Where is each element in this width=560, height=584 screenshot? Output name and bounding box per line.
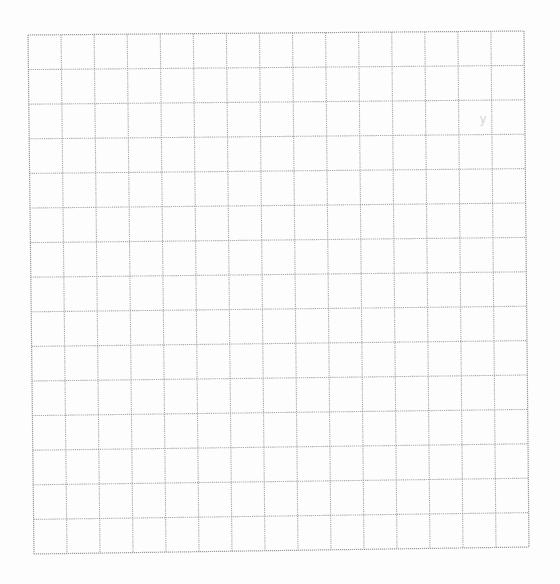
grid-vertical-line	[392, 32, 397, 549]
grid-horizontal-line	[34, 513, 529, 520]
grid-horizontal-line	[30, 237, 526, 242]
grid-vertical-line	[193, 34, 199, 552]
grid-horizontal-line	[31, 272, 527, 277]
grid-horizontal-line	[32, 375, 527, 381]
grid-vertical-line	[491, 31, 496, 547]
grid-vertical-line	[259, 33, 265, 551]
grid-horizontal-line	[31, 306, 526, 312]
grid-horizontal-line	[32, 409, 527, 415]
grid-vertical-line	[326, 33, 331, 550]
grid-vertical-line	[94, 34, 100, 553]
grid-border	[28, 35, 34, 554]
grid-vertical-line	[293, 33, 298, 550]
grid-paper-sheet: y	[0, 0, 560, 584]
grid-vertical-line	[425, 32, 430, 549]
grid-vertical-line	[61, 35, 67, 554]
grid-horizontal-line	[28, 65, 524, 69]
grid-horizontal-line	[33, 478, 528, 485]
grid-horizontal-line	[30, 203, 526, 208]
grid-horizontal-line	[33, 444, 528, 450]
grid-horizontal-line	[29, 100, 525, 104]
grid-horizontal-line	[29, 134, 525, 139]
grid-vertical-line	[127, 34, 133, 552]
grid-horizontal-line	[32, 341, 527, 347]
grid-horizontal-line	[30, 169, 526, 174]
grid-lines	[0, 0, 560, 584]
faint-pencil-mark: y	[480, 112, 486, 126]
grid-border	[524, 31, 529, 547]
grid-border	[28, 31, 524, 35]
grid-vertical-line	[160, 34, 166, 552]
grid-vertical-line	[458, 32, 463, 548]
grid-vertical-line	[226, 33, 232, 551]
grid-border	[34, 547, 529, 554]
grid-vertical-line	[359, 32, 364, 549]
